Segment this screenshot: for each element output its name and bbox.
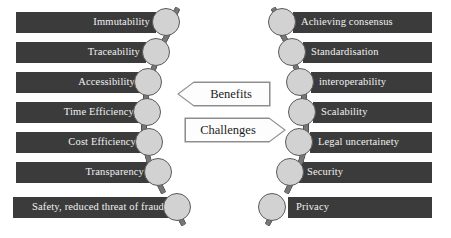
benefit-label: Safety, reduced threat of fraud bbox=[32, 202, 164, 213]
chain-node-standardisation bbox=[278, 38, 306, 66]
challenge-label: Privacy bbox=[296, 202, 329, 213]
challenge-bar-standardisation: Standardisation bbox=[303, 42, 432, 63]
benefit-label: Accessibility bbox=[78, 77, 135, 88]
chain-node-legal-uncertainety bbox=[285, 128, 313, 156]
challenge-bar-interoperability: interoperability bbox=[311, 72, 432, 93]
chain-node-achieving-consensus bbox=[268, 8, 296, 36]
benefit-bar-immutability: Immutability bbox=[16, 12, 156, 33]
challenge-bar-legal-uncertainety: Legal uncertainety bbox=[310, 132, 432, 153]
benefit-bar-time-efficiency: Time Efficiency bbox=[16, 102, 140, 123]
benefit-label: Cost Efficiency bbox=[68, 137, 136, 148]
chain-node-scalability bbox=[288, 98, 316, 126]
benefit-label: Transparency bbox=[85, 167, 144, 178]
challenge-label: interoperability bbox=[319, 77, 386, 88]
chain-node-immutability bbox=[152, 8, 180, 36]
chain-node-accessibility bbox=[134, 68, 162, 96]
benefit-label: Traceability bbox=[88, 47, 140, 58]
chain-node-safety-fraud bbox=[163, 193, 191, 221]
chain-node-time-efficiency bbox=[133, 98, 161, 126]
challenge-bar-scalability: Scalability bbox=[313, 102, 432, 123]
benefit-bar-cost-efficiency: Cost Efficiency bbox=[16, 132, 142, 153]
chain-node-interoperability bbox=[286, 68, 314, 96]
benefit-label: Immutability bbox=[93, 17, 150, 28]
challenge-label: Scalability bbox=[321, 107, 368, 118]
benefit-bar-transparency: Transparency bbox=[16, 162, 150, 183]
benefit-bar-traceability: Traceability bbox=[16, 42, 146, 63]
challenges-arrow: Challenges bbox=[185, 118, 285, 142]
challenge-label: Legal uncertainety bbox=[318, 137, 399, 148]
challenges-arrow-label: Challenges bbox=[200, 124, 256, 137]
challenge-label: Standardisation bbox=[311, 47, 379, 58]
benefits-arrow-label: Benefits bbox=[210, 88, 252, 101]
challenge-label: Security bbox=[307, 167, 343, 178]
benefit-bar-accessibility: Accessibility bbox=[16, 72, 141, 93]
benefit-label: Time Efficiency bbox=[64, 107, 134, 118]
benefit-bar-safety-fraud: Safety, reduced threat of fraud bbox=[13, 197, 170, 218]
chain-node-privacy bbox=[258, 193, 286, 221]
challenge-bar-achieving-consensus: Achieving consensus bbox=[293, 12, 432, 33]
benefits-arrow: Benefits bbox=[178, 82, 270, 106]
chain-node-security bbox=[276, 158, 304, 186]
chain-node-transparency bbox=[144, 158, 172, 186]
challenge-bar-privacy: Privacy bbox=[288, 197, 432, 218]
challenge-bar-security: Security bbox=[299, 162, 432, 183]
challenge-label: Achieving consensus bbox=[301, 17, 393, 28]
chain-node-cost-efficiency bbox=[135, 128, 163, 156]
chain-node-traceability bbox=[142, 38, 170, 66]
chain-diagram-figure: Immutability Traceability Accessibility … bbox=[0, 0, 451, 238]
